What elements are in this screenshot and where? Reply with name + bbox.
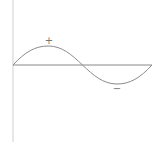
positive-label: + xyxy=(45,36,53,46)
negative-label: − xyxy=(113,84,121,94)
sine-wave-diagram: + − xyxy=(0,0,164,152)
diagram-canvas xyxy=(0,0,164,152)
